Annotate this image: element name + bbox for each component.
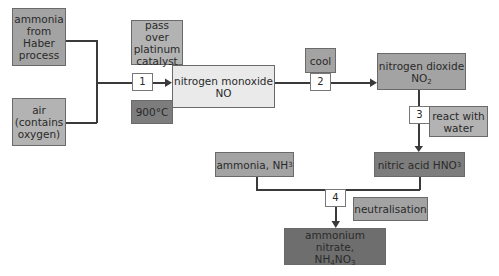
- node-formula: NO2: [411, 72, 432, 84]
- formula-main: NO: [411, 72, 427, 84]
- label-line: Haber: [23, 37, 55, 49]
- nitrogen-monoxide-box: nitrogen monoxide NO: [172, 65, 275, 108]
- neutralisation-condition-box: neutralisation: [353, 197, 428, 221]
- catalyst-condition-box: pass over platinum catalyst: [131, 20, 183, 65]
- label-line: react with: [432, 110, 485, 122]
- formula-subscript: 2: [427, 78, 431, 86]
- node-name: nitric acid HNO: [378, 159, 457, 171]
- nitric-acid-box: nitric acid HNO3: [374, 152, 465, 177]
- label-line: process: [19, 49, 59, 61]
- step-4-label: 4: [325, 189, 346, 207]
- arrowhead-to-no: [165, 79, 172, 88]
- label-line: water: [444, 122, 474, 134]
- node-name: ammonia, NH: [216, 159, 288, 171]
- arrowhead-to-no2: [370, 79, 377, 88]
- label-line: air: [32, 104, 46, 116]
- label-line: (contains: [15, 116, 64, 128]
- arrowhead-to-ammonium-nitrate: [332, 221, 341, 228]
- node-name: nitrogen dioxide: [379, 60, 464, 72]
- react-with-water-condition-box: react with water: [429, 106, 488, 137]
- ammonia-haber-box: ammonia from Haber process: [12, 8, 66, 66]
- air-box: air (contains oxygen): [12, 98, 66, 146]
- step-3-label: 3: [409, 106, 430, 124]
- node-name: nitrogen monoxide: [174, 75, 273, 87]
- nitrogen-dioxide-box: nitrogen dioxide NO2: [377, 53, 466, 90]
- formula-part: NH: [315, 253, 331, 265]
- cool-condition-box: cool: [305, 48, 336, 73]
- formula-part: NO: [335, 253, 351, 265]
- temperature-condition-box: 900°C: [131, 100, 173, 124]
- label-line: platinum: [134, 43, 181, 55]
- label-line: oxygen): [18, 128, 60, 140]
- label-line: ammonia: [14, 13, 63, 25]
- step-1-label: 1: [132, 73, 153, 91]
- ammonium-nitrate-box: ammonium nitrate, NH4NO3: [284, 228, 386, 265]
- node-formula: NH4NO3: [315, 253, 356, 265]
- ammonia-nh3-box: ammonia, NH3: [215, 152, 294, 177]
- node-formula: NO: [215, 87, 231, 99]
- step-2-label: 2: [310, 73, 331, 91]
- formula-subscript: 3: [351, 259, 355, 267]
- arrowheads: [0, 0, 499, 276]
- label-line: pass over: [132, 19, 182, 43]
- node-name: ammonium nitrate,: [285, 229, 385, 253]
- label-line: from: [27, 25, 51, 37]
